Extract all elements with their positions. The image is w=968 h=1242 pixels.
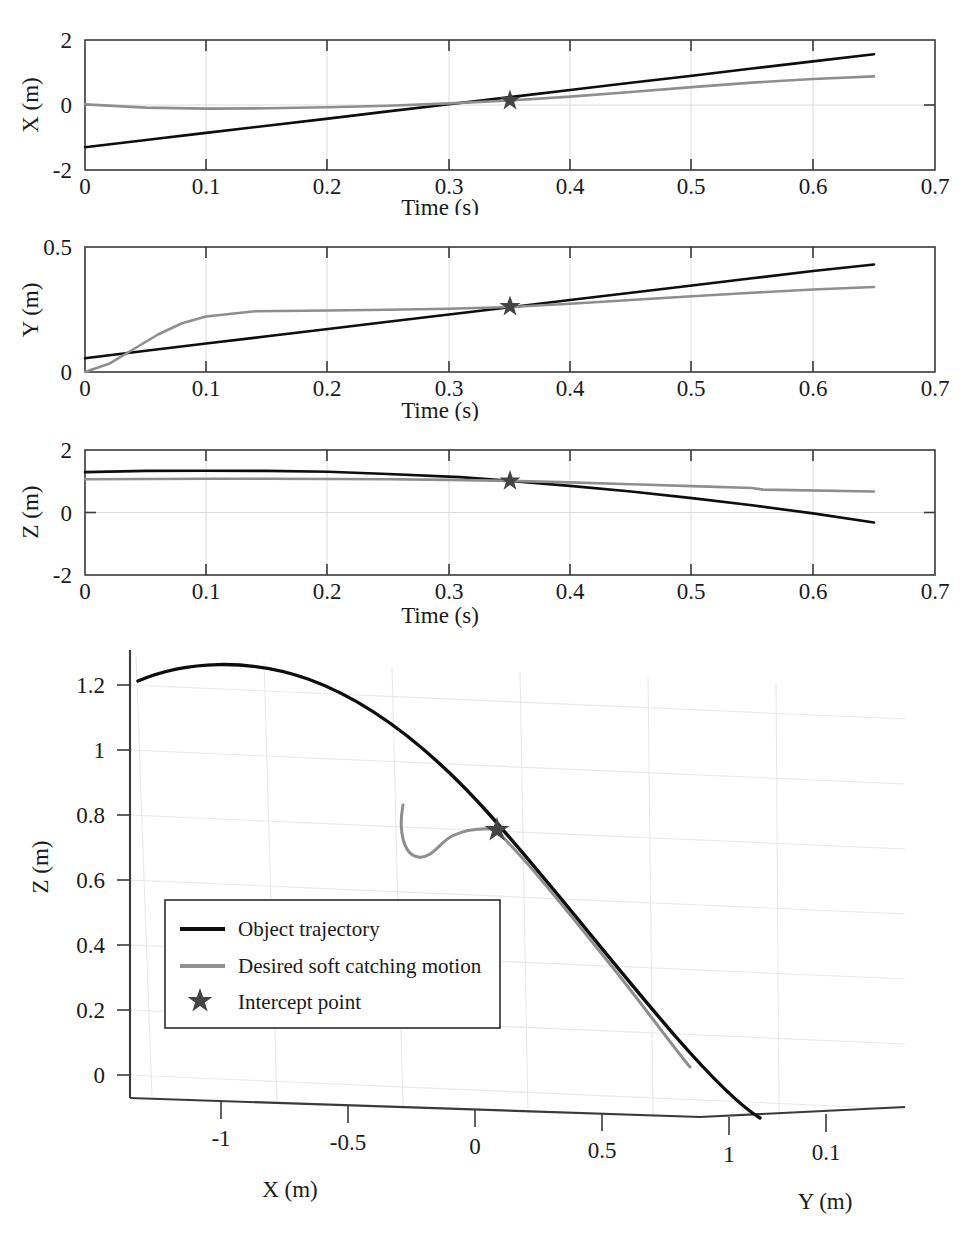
panel-3d-ytick-label-0: 0.1 bbox=[812, 1140, 841, 1165]
panel-x-xtick-label-6: 0.6 bbox=[799, 174, 828, 199]
panel-y-xtick-label-5: 0.5 bbox=[677, 376, 706, 401]
panel-3d-ztick-label-3: 0.6 bbox=[76, 868, 105, 893]
panel-x-xtick-label-5: 0.5 bbox=[677, 174, 706, 199]
panel-3d-x-ticks bbox=[221, 1101, 826, 1135]
panel-z-chart: 2 0 -2 0 0.1 0.2 0.3 0.4 0.5 0.6 0.7 Z (… bbox=[0, 418, 968, 628]
panel-3d-ztick-label-0: 0 bbox=[94, 1063, 106, 1088]
panel-x-gridlines bbox=[85, 40, 935, 170]
panel-z-xtick-label-3: 0.3 bbox=[435, 579, 464, 604]
panel-y-series-desired-motion bbox=[85, 287, 874, 372]
panel-3d-ztick-label-4: 0.8 bbox=[76, 803, 105, 828]
panel-z-xtick-label-4: 0.4 bbox=[556, 579, 585, 604]
legend-label-desired-motion: Desired soft catching motion bbox=[238, 954, 482, 978]
panel-y-ytick-label-0: 0 bbox=[61, 360, 73, 385]
panel-y-xtick-label-2: 0.2 bbox=[313, 376, 342, 401]
panel-x-series-desired-motion bbox=[85, 76, 874, 108]
panel-z-ytick-label-0: 0 bbox=[61, 501, 73, 526]
panel-3d-ztick-label-2: 0.4 bbox=[76, 933, 105, 958]
panel-3d-xtick-label-0: -1 bbox=[211, 1126, 230, 1151]
panel-x-xtick-label-1: 0.1 bbox=[192, 174, 221, 199]
panel-3d-xlabel: X (m) bbox=[262, 1177, 318, 1202]
legend-label-object-trajectory: Object trajectory bbox=[238, 917, 380, 941]
panel-y-series-object-trajectory bbox=[85, 265, 874, 359]
panel-x-xlabel: Time (s) bbox=[401, 195, 479, 215]
panel-y-xtick-label-0: 0 bbox=[79, 376, 91, 401]
panel-y-ylabel: Y (m) bbox=[18, 283, 43, 338]
panel-z-xtick-label-7: 0.7 bbox=[921, 579, 950, 604]
panel-z-series-desired-motion bbox=[85, 479, 874, 492]
panel-z-xtick-label-2: 0.2 bbox=[313, 579, 342, 604]
panel-x-ylabel: X (m) bbox=[18, 77, 43, 133]
panel-3d-z-ticks bbox=[117, 685, 130, 1075]
panel-z-ytick-label-2: 2 bbox=[61, 438, 73, 463]
panel-3d-ztick-label-6: 1.2 bbox=[76, 673, 105, 698]
panel-3d-chart: 1.2 1 0.8 0.6 0.4 0.2 0 -1 -0.5 0 0.5 1 … bbox=[0, 617, 968, 1242]
panel-x-ytick-label--2: -2 bbox=[53, 158, 72, 183]
panel-x-xtick-label-4: 0.4 bbox=[556, 174, 585, 199]
panel-3d-ylabel: Y (m) bbox=[798, 1189, 853, 1214]
panel-3d-gridlines bbox=[130, 657, 905, 1120]
panel-3d-series-desired-motion-tail bbox=[495, 829, 690, 1067]
panel-x-ytick-label-2: 2 bbox=[61, 28, 73, 53]
panel-x-xtick-label-0: 0 bbox=[79, 174, 91, 199]
panel-y-xtick-label-4: 0.4 bbox=[556, 376, 585, 401]
panel-z-ylabel: Z (m) bbox=[18, 485, 43, 538]
panel-3d-zlabel: Z (m) bbox=[28, 840, 53, 893]
panel-x-xtick-label-7: 0.7 bbox=[921, 174, 950, 199]
panel-x-chart: 2 0 -2 0 0.1 0.2 0.3 0.4 0.5 0.6 0.7 X (… bbox=[0, 0, 968, 215]
trajectory-figure: 2 0 -2 0 0.1 0.2 0.3 0.4 0.5 0.6 0.7 X (… bbox=[0, 0, 968, 1242]
legend-label-intercept-point: Intercept point bbox=[238, 990, 361, 1014]
panel-y-ytick-label-0-5: 0.5 bbox=[43, 235, 72, 260]
panel-3d-xtick-label-1: -0.5 bbox=[330, 1130, 366, 1155]
panel-x-xtick-label-2: 0.2 bbox=[313, 174, 342, 199]
panel-z-ytick-label--2: -2 bbox=[53, 563, 72, 588]
panel-z-xtick-label-6: 0.6 bbox=[799, 579, 828, 604]
panel-3d-series-desired-motion bbox=[401, 805, 495, 857]
panel-3d-xtick-label-2: 0 bbox=[469, 1134, 481, 1159]
panel-3d-ztick-label-5: 1 bbox=[94, 738, 106, 763]
panel-y-xtick-label-1: 0.1 bbox=[192, 376, 221, 401]
panel-z-xtick-label-5: 0.5 bbox=[677, 579, 706, 604]
panel-y-xtick-label-7: 0.7 bbox=[921, 376, 950, 401]
legend: Object trajectory Desired soft catching … bbox=[165, 900, 500, 1028]
panel-y-chart: 0.5 0 0 0.1 0.2 0.3 0.4 0.5 0.6 0.7 Y (m… bbox=[0, 226, 968, 421]
panel-3d-series-object-trajectory bbox=[138, 665, 760, 1118]
panel-y-xtick-label-6: 0.6 bbox=[799, 376, 828, 401]
panel-x-ytick-label-0: 0 bbox=[61, 93, 73, 118]
panel-3d-x-axis bbox=[130, 1098, 905, 1117]
panel-3d-xtick-label-3: 0.5 bbox=[588, 1138, 617, 1163]
panel-z-xtick-label-1: 0.1 bbox=[192, 579, 221, 604]
panel-3d-ztick-label-1: 0.2 bbox=[76, 998, 105, 1023]
panel-3d-xtick-label-4: 1 bbox=[723, 1142, 735, 1167]
panel-z-xtick-label-0: 0 bbox=[79, 579, 91, 604]
